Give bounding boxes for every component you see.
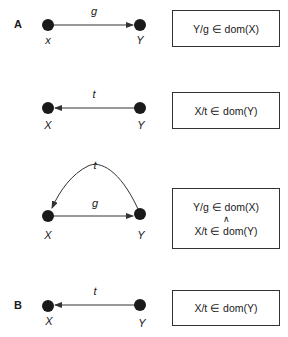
node-x (42, 19, 54, 31)
panel-1-graph (42, 19, 146, 31)
edge-label-t: t (93, 285, 96, 297)
node-y (134, 19, 146, 31)
node-label-right: Y (137, 119, 144, 131)
constraint-box-3: Y/g ∈ dom(X) ∧ X/t ∈ dom(Y) (172, 188, 280, 249)
panel-3-graph (42, 164, 146, 222)
node-label-left: X (44, 119, 51, 131)
constraint-text: Y/g ∈ dom(X) (193, 22, 259, 36)
diagram-graphics (0, 0, 288, 337)
node-label-right: Y (137, 229, 144, 241)
node-label-left: x (45, 34, 51, 46)
node-label-right: Y (138, 317, 145, 329)
logical-and-symbol: ∧ (223, 214, 230, 224)
constraint-text: X/t ∈ dom(Y) (194, 104, 257, 118)
edge-label-g: g (91, 5, 97, 17)
node-y (134, 102, 146, 114)
node-y (134, 299, 146, 311)
node-label-left: X (45, 315, 52, 327)
node-x (42, 300, 54, 312)
node-label-left: X (44, 229, 51, 241)
node-y (134, 208, 146, 220)
constraint-text: X/t ∈ dom(Y) (194, 224, 257, 238)
edge-label-t: t (93, 159, 96, 171)
panel-4-graph (42, 299, 146, 312)
constraint-text: X/t ∈ dom(Y) (194, 301, 257, 315)
section-label-b: B (14, 299, 22, 311)
constraint-box-2: X/t ∈ dom(Y) (172, 92, 280, 129)
constraint-box-1: Y/g ∈ dom(X) (172, 10, 280, 47)
section-label-a: A (14, 18, 22, 30)
constraint-box-4: X/t ∈ dom(Y) (172, 290, 280, 326)
node-x (42, 210, 54, 222)
edge-label-g: g (92, 197, 98, 209)
node-x (42, 102, 54, 114)
edge-label-t: t (92, 88, 95, 100)
node-label-right: Y (136, 34, 143, 46)
constraint-text: Y/g ∈ dom(X) (193, 200, 259, 214)
panel-2-graph (42, 102, 146, 114)
